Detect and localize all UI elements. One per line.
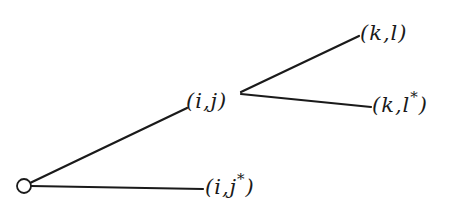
node-label-kl-close: ) <box>398 21 407 45</box>
node-label-klstar-star: * <box>410 88 419 106</box>
node-label-ij: (i,j) <box>186 88 227 112</box>
node-label-klstar: (k,l*) <box>372 92 428 116</box>
node-label-ijstar-text: (i,j <box>205 175 237 199</box>
node-label-ijstar-close: ) <box>246 175 255 199</box>
edge-ij-to-kl <box>241 36 359 92</box>
node-label-ij-text: (i,j <box>186 89 218 113</box>
edge-root-to-ij <box>30 108 187 183</box>
node-label-kl-text: (k,l <box>360 21 398 45</box>
edge-ij-to-klstar <box>241 94 371 107</box>
node-label-ijstar: (i,j*) <box>205 174 255 198</box>
root-node-circle <box>17 179 31 193</box>
node-label-ij-close: ) <box>218 89 227 113</box>
node-label-klstar-text: (k,l <box>372 93 410 117</box>
edge-root-to-ijstar <box>31 186 203 189</box>
node-label-ijstar-star: * <box>237 170 246 188</box>
node-label-kl: (k,l) <box>360 20 408 44</box>
node-label-klstar-close: ) <box>419 93 428 117</box>
